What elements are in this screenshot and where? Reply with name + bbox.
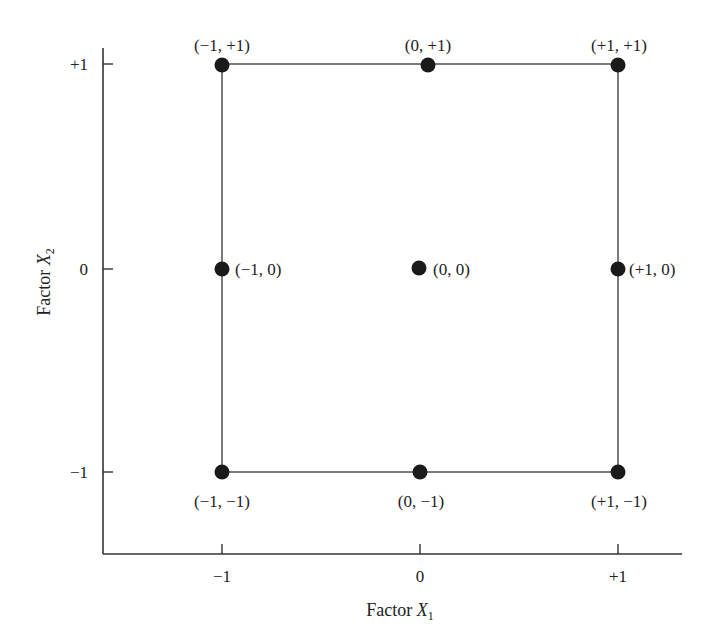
point-label: (0, −1) (398, 492, 444, 511)
x-tick-label: 0 (416, 567, 425, 586)
factorial-design-diagram: +1 0 −1 −1 0 +1 Factor X1 Factor X2 (−1,… (0, 0, 720, 644)
x-ticks: −1 0 +1 (213, 544, 627, 586)
design-point (611, 262, 626, 277)
y-tick-label: −1 (70, 463, 88, 482)
x-tick-label: +1 (609, 567, 627, 586)
y-tick-label: 0 (80, 260, 89, 279)
point-labels: (−1, +1) (0, +1) (+1, +1) (−1, 0) (0, 0)… (194, 36, 675, 511)
design-point (421, 58, 436, 73)
point-label: (+1, +1) (591, 36, 647, 55)
design-point (611, 58, 626, 73)
design-point (611, 465, 626, 480)
point-label: (−1, −1) (194, 492, 250, 511)
y-ticks: +1 0 −1 (70, 55, 113, 482)
design-point (215, 465, 230, 480)
design-point (215, 58, 230, 73)
point-label: (0, +1) (405, 36, 451, 55)
point-label: (0, 0) (433, 260, 470, 279)
design-point (412, 261, 427, 276)
y-axis-label: Factor X2 (34, 248, 57, 315)
point-label: (+1, 0) (629, 260, 675, 279)
point-label: (−1, +1) (194, 36, 250, 55)
x-axis-label: Factor X1 (366, 600, 433, 623)
design-point (215, 262, 230, 277)
design-point (413, 465, 428, 480)
y-tick-label: +1 (70, 55, 88, 74)
point-label: (+1, −1) (591, 492, 647, 511)
point-label: (−1, 0) (235, 260, 281, 279)
x-tick-label: −1 (213, 567, 231, 586)
